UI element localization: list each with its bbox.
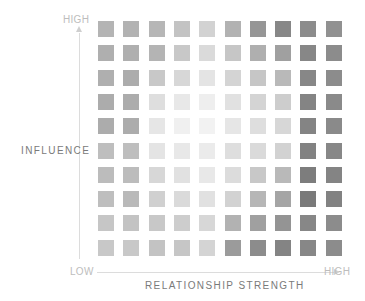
heatmap-cell (174, 70, 190, 86)
heatmap-cell (149, 167, 165, 183)
heatmap-cell (326, 21, 342, 37)
heatmap-cell (123, 240, 139, 256)
x-axis-title: RELATIONSHIP STRENGTH (145, 280, 305, 291)
heatmap-cell (300, 240, 316, 256)
heatmap-cell (149, 215, 165, 231)
heatmap-cell (149, 118, 165, 134)
heatmap-cell (300, 143, 316, 159)
heatmap-cell (326, 118, 342, 134)
heatmap-cell (300, 45, 316, 61)
heatmap-cell (250, 94, 266, 110)
heatmap-cell (149, 240, 165, 256)
x-axis-high-label: HIGH (324, 266, 350, 277)
heatmap-cell (300, 167, 316, 183)
heatmap-cell (123, 45, 139, 61)
heatmap-cell (98, 94, 114, 110)
heatmap-cell (326, 240, 342, 256)
heatmap-cell (300, 70, 316, 86)
heatmap-cell (174, 167, 190, 183)
heatmap-cell (326, 167, 342, 183)
heatmap-cell (275, 215, 291, 231)
heatmap-cell (250, 143, 266, 159)
heatmap-cell (199, 191, 215, 207)
heatmap-cell (174, 191, 190, 207)
heatmap-cell (174, 21, 190, 37)
heatmap-cell (250, 21, 266, 37)
heatmap-cell (250, 70, 266, 86)
heatmap-cell (123, 70, 139, 86)
heatmap-cell (149, 94, 165, 110)
heatmap-cell (225, 45, 241, 61)
x-axis-low-label: LOW (70, 266, 94, 277)
heatmap-cell (174, 45, 190, 61)
heatmap-cell (225, 215, 241, 231)
heatmap-cell (149, 45, 165, 61)
heatmap-cell (174, 118, 190, 134)
heatmap-cell (275, 191, 291, 207)
heatmap-cell (123, 21, 139, 37)
heatmap-cell (98, 215, 114, 231)
heatmap-cell (300, 215, 316, 231)
heatmap-cell (225, 21, 241, 37)
heatmap-cell (98, 191, 114, 207)
heatmap-grid (98, 21, 343, 257)
heatmap-cell (300, 118, 316, 134)
heatmap-cell (225, 240, 241, 256)
heatmap-cell (225, 118, 241, 134)
heatmap-cell (149, 21, 165, 37)
heatmap-cell (174, 94, 190, 110)
heatmap-cell (326, 143, 342, 159)
heatmap-cell (199, 70, 215, 86)
heatmap-cell (275, 45, 291, 61)
heatmap-cell (275, 143, 291, 159)
heatmap-cell (326, 94, 342, 110)
y-axis-high-label: HIGH (63, 14, 89, 25)
heatmap-cell (225, 143, 241, 159)
heatmap-cell (326, 215, 342, 231)
heatmap-cell (174, 215, 190, 231)
heatmap-cell (199, 143, 215, 159)
heatmap-cell (300, 191, 316, 207)
heatmap-cell (250, 45, 266, 61)
heatmap-cell (275, 70, 291, 86)
heatmap-cell (123, 94, 139, 110)
heatmap-cell (225, 70, 241, 86)
heatmap-cell (199, 118, 215, 134)
heatmap-cell (98, 70, 114, 86)
x-axis-line (97, 272, 335, 273)
heatmap-cell (199, 240, 215, 256)
heatmap-cell (250, 240, 266, 256)
heatmap-cell (225, 167, 241, 183)
heatmap-cell (123, 143, 139, 159)
heatmap-cell (199, 215, 215, 231)
heatmap-cell (225, 191, 241, 207)
heatmap-cell (123, 191, 139, 207)
heatmap-cell (250, 215, 266, 231)
heatmap-cell (300, 94, 316, 110)
heatmap-cell (199, 167, 215, 183)
heatmap-cell (275, 240, 291, 256)
y-axis-arrow-icon (76, 26, 82, 32)
heatmap-cell (174, 143, 190, 159)
heatmap-cell (123, 118, 139, 134)
heatmap-cell (98, 118, 114, 134)
heatmap-cell (199, 45, 215, 61)
heatmap-cell (98, 21, 114, 37)
heatmap-cell (149, 191, 165, 207)
heatmap-cell (275, 94, 291, 110)
y-axis-title: INFLUENCE (21, 145, 90, 156)
heatmap-cell (98, 167, 114, 183)
heatmap-cell (300, 21, 316, 37)
heatmap-cell (199, 94, 215, 110)
heatmap-cell (326, 70, 342, 86)
heatmap-cell (275, 21, 291, 37)
heatmap-cell (326, 191, 342, 207)
heatmap-cell (275, 118, 291, 134)
heatmap-cell (98, 240, 114, 256)
heatmap-cell (123, 215, 139, 231)
heatmap-cell (250, 191, 266, 207)
heatmap-cell (123, 167, 139, 183)
heatmap-cell (326, 45, 342, 61)
heatmap-cell (98, 143, 114, 159)
heatmap-cell (199, 21, 215, 37)
